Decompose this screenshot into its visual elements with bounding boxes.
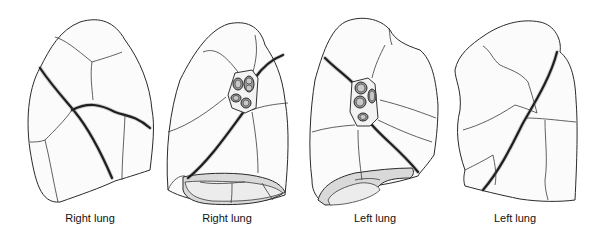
label-right-lung-lateral: Right lung [30,212,150,224]
right-lung-lateral [28,20,153,202]
label-right-lung-medial: Right lung [167,212,287,224]
lung-diagram [0,0,600,247]
label-left-lung-lateral: Left lung [455,212,575,224]
left-lung-lateral [455,21,577,202]
right-lung-medial [167,23,288,205]
left-lung-medial [310,18,438,205]
label-left-lung-medial: Left lung [315,212,435,224]
